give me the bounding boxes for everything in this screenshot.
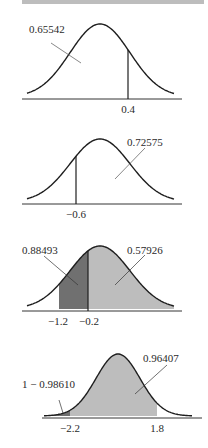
area-label: 0.65542: [29, 23, 65, 35]
normal-curves-figure: 0.65542 0.4 0.72575 −0.6 0.88493 0.57926…: [0, 0, 208, 448]
area-label-right: 0.57926: [127, 244, 163, 256]
chart-3: 0.88493 0.57926 −1.2 −0.2: [22, 244, 182, 327]
chart-2: 0.72575 −0.6: [22, 136, 182, 220]
area-label-left: 0.88493: [22, 244, 58, 256]
chart-4: 1 − 0.98610 0.96407 −2.2 1.8: [22, 352, 202, 434]
area-label: 0.72575: [127, 136, 163, 148]
tick-label-left: −2.2: [60, 422, 80, 434]
area-label-left: 1 − 0.98610: [22, 378, 75, 390]
tick-label: 0.4: [121, 103, 135, 115]
leader-line-left: [59, 400, 63, 413]
tick-label-right: −0.2: [79, 315, 99, 327]
tick-label-left: −1.2: [48, 315, 68, 327]
leader-line: [51, 43, 81, 63]
tick-label-right: 1.8: [150, 422, 164, 434]
chart-1: 0.65542 0.4: [22, 23, 182, 115]
tick-label: −0.6: [66, 208, 86, 220]
area-label-right: 0.96407: [143, 352, 179, 364]
leader-line: [115, 148, 145, 179]
